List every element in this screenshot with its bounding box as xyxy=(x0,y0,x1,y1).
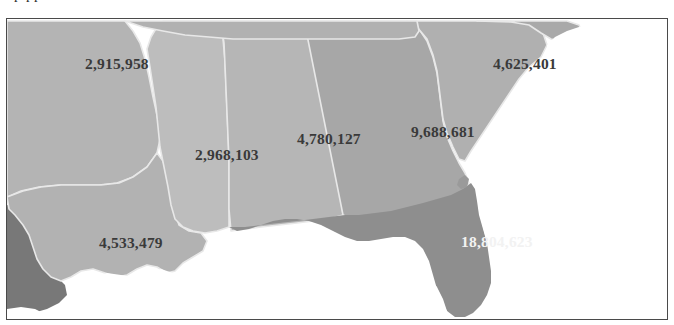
map-figure-frame: 2,915,958 2,968,103 4,780,127 9,688,681 … xyxy=(6,18,668,320)
map-label-south-carolina: 4,625,401 xyxy=(493,55,557,72)
figure-page: p pp xyxy=(0,0,674,325)
map-label-louisiana: 4,533,479 xyxy=(99,234,163,251)
clipped-text-line: p pp xyxy=(14,0,42,2)
map-label-georgia: 9,688,681 xyxy=(411,123,475,140)
choropleth-map: 2,915,958 2,968,103 4,780,127 9,688,681 … xyxy=(7,19,667,319)
map-label-alabama: 4,780,127 xyxy=(297,130,361,147)
state-arkansas[interactable] xyxy=(7,21,161,197)
map-label-mississippi: 2,968,103 xyxy=(195,146,259,163)
clipped-document-text: p pp xyxy=(0,0,674,16)
map-label-florida: 18,804,623 xyxy=(461,233,533,250)
map-label-arkansas: 2,915,958 xyxy=(85,55,149,72)
